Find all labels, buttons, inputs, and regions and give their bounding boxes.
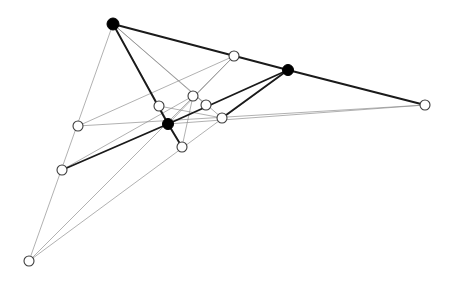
point-open-D <box>229 51 239 61</box>
point-open-F <box>154 101 164 111</box>
point-filled-C <box>163 119 174 130</box>
point-filled-A <box>107 18 119 30</box>
point-open-G <box>201 100 211 110</box>
point-open-M <box>24 256 34 266</box>
point-open-J <box>420 100 430 110</box>
point-open-K <box>73 121 83 131</box>
point-open-L <box>57 165 67 175</box>
diagram-svg <box>0 0 454 284</box>
point-open-H <box>217 113 227 123</box>
point-filled-B <box>283 65 294 76</box>
point-open-I <box>177 142 187 152</box>
geometric-figure-canvas <box>0 0 454 284</box>
canvas-background <box>0 0 454 284</box>
point-open-E <box>188 91 198 101</box>
